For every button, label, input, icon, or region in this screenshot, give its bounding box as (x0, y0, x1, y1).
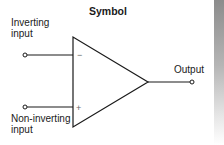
minus-sign: − (77, 50, 82, 60)
plus-sign: + (76, 103, 81, 113)
amplifier-triangle (73, 37, 148, 127)
side-gradient-bar (214, 0, 224, 145)
op-amp-diagram: Symbol Inverting input Non-inverting inp… (0, 0, 224, 145)
op-amp-symbol: − + (0, 0, 224, 145)
non-inverting-input-terminal (23, 105, 27, 109)
inverting-input-terminal (23, 53, 27, 57)
output-terminal (190, 80, 194, 84)
